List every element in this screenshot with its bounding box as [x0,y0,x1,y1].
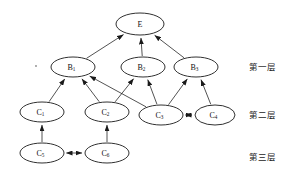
nodes-layer: EB1B2B3C1C2C3C4C5C6 [20,13,235,163]
layer-label-layer-3: 第三层 [249,152,276,162]
node-subscript: 1 [42,111,45,117]
node-e[interactable]: E [116,13,164,35]
node-c1[interactable]: C1 [20,102,64,122]
edge-c3-to-b3 [169,79,188,105]
layer-label-layer-1: 第一层 [249,62,276,72]
scan-speck-artifact [35,65,37,67]
node-b2[interactable]: B2 [121,57,165,77]
node-graph-canvas: EB1B2B3C1C2C3C4C5C6 第一层第二层第三层 [0,0,296,176]
node-c6[interactable]: C6 [85,143,129,163]
node-subscript: 1 [73,66,76,72]
edge-c2-to-b1 [82,79,99,102]
node-c2[interactable]: C2 [85,102,129,122]
edge-b3-to-e [155,35,184,58]
node-subscript: 2 [143,66,146,72]
node-subscript: 3 [196,66,199,72]
edge-c4-to-b3 [201,80,211,105]
layer-labels-group: 第一层第二层第三层 [249,62,276,162]
node-b3[interactable]: B3 [174,57,218,77]
node-c5[interactable]: C5 [20,143,64,163]
edge-c1-to-b1 [49,79,65,102]
edges-layer [42,35,211,153]
node-subscript: 2 [107,111,110,117]
diagram-root: EB1B2B3C1C2C3C4C5C6 第一层第二层第三层 [0,0,296,176]
edge-c3-to-b1 [90,76,146,107]
node-subscript: 4 [215,114,218,120]
edge-b1-to-e [87,35,124,59]
node-subscript: 5 [42,152,45,158]
node-subscript: 3 [161,114,164,120]
node-c4[interactable]: C4 [195,105,235,125]
node-c3[interactable]: C3 [139,105,183,125]
edge-c3-to-b2 [148,80,157,105]
node-label-e: E [138,20,143,29]
node-subscript: 6 [107,152,110,158]
node-b1[interactable]: B1 [51,57,95,77]
layer-label-layer-2: 第二层 [249,110,276,120]
edge-b2-to-e [141,38,142,56]
